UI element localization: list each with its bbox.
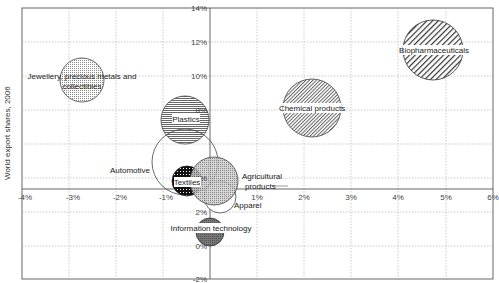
x-tick: 3% — [345, 193, 357, 202]
label-agricultural-2: products — [245, 182, 276, 191]
y-tick: 8% — [195, 106, 207, 115]
label-biopharmaceuticals: Biopharmaceuticals — [399, 46, 469, 55]
y-axis-title: World export shares, 2006 — [3, 86, 12, 180]
x-tick: 4% — [392, 193, 404, 202]
x-tick: 2% — [298, 193, 310, 202]
label-textiles: Textiles — [174, 178, 201, 187]
label-chemical-products: Chemical products — [279, 104, 345, 113]
x-tick: -4% — [18, 193, 32, 202]
label-information-technology: Information technology — [171, 224, 252, 233]
x-tick: 5% — [440, 193, 452, 202]
y-tick: -2% — [193, 275, 207, 283]
label-automotive: Automotive — [110, 166, 151, 175]
label-jewellery-2: collectibles — [62, 82, 101, 91]
y-tick: 14% — [191, 4, 207, 13]
y-tick: 0% — [195, 242, 207, 251]
vertical-gridlines — [69, 8, 446, 279]
label-jewellery: Jewellery, precious metals and — [28, 72, 137, 81]
y-tick-labels: 14% 12% 10% 8% 4% 2% 0% -2% — [191, 4, 207, 283]
y-tick: 12% — [191, 38, 207, 47]
label-plastics: Plastics — [172, 115, 200, 124]
label-apparel: Apparel — [234, 201, 262, 210]
bubble-chart: -4% -3% -2% -1% 1% 2% 3% 4% 5% 6% 14% 12… — [0, 0, 499, 283]
x-tick: -2% — [113, 193, 127, 202]
label-agricultural: Agricultural — [242, 172, 282, 181]
x-tick: 6% — [487, 193, 499, 202]
x-tick: -3% — [66, 193, 80, 202]
y-tick: 10% — [191, 72, 207, 81]
x-tick: -1% — [159, 193, 173, 202]
y-tick: 2% — [195, 208, 207, 217]
